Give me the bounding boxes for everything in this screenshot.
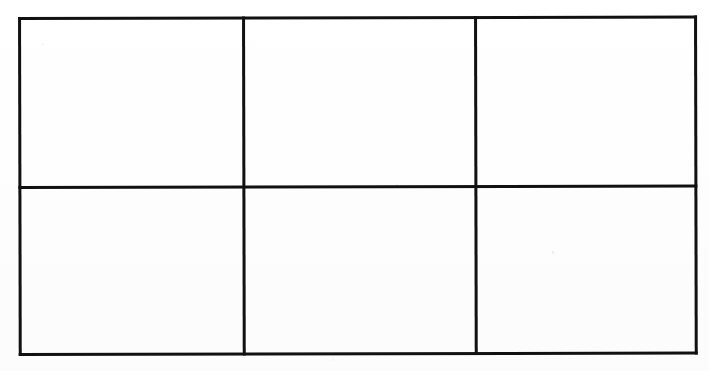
- table-cell-r1c2[interactable]: [477, 188, 697, 355]
- page-canvas: [0, 0, 709, 371]
- table-border-bottom: [19, 352, 698, 356]
- table-cell-text: [21, 19, 242, 185]
- table-cell-text: [477, 19, 697, 185]
- table-cell-r0c1[interactable]: [245, 19, 474, 185]
- table-cell-r0c2[interactable]: [477, 19, 697, 185]
- table-cell-text: [477, 188, 697, 355]
- table-cell-text: [245, 188, 474, 355]
- table-cell-text: [21, 188, 242, 355]
- table-cell-text: [245, 19, 474, 185]
- table-cell-r1c0[interactable]: [21, 188, 242, 355]
- table-cell-r1c1[interactable]: [245, 188, 474, 355]
- table-cell-r0c0[interactable]: [21, 19, 242, 185]
